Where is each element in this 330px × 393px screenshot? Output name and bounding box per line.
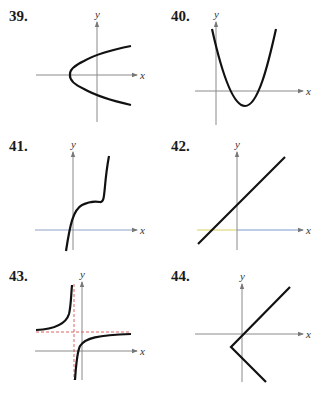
cubic-curve xyxy=(66,156,109,251)
rational-left-branch xyxy=(36,285,72,330)
y-axis-label: y xyxy=(94,8,100,20)
graph-42: x y xyxy=(197,138,311,250)
graph-40: x y xyxy=(195,8,311,125)
y-axis-label: y xyxy=(70,138,76,150)
rational-right-branch xyxy=(75,334,131,380)
graph-43: x y xyxy=(35,268,145,380)
x-axis-label: x xyxy=(305,224,311,236)
linear-curve xyxy=(198,157,285,244)
x-axis-label: x xyxy=(305,328,311,340)
x-axis-label: x xyxy=(139,69,145,81)
graph-39: x y xyxy=(36,8,145,122)
y-axis-label: y xyxy=(234,138,240,150)
graphs-canvas: x y x y x y x y x y xyxy=(0,0,330,393)
y-axis-label: y xyxy=(79,268,85,280)
parabola-curve xyxy=(212,29,276,106)
graph-44: x y xyxy=(195,270,311,382)
x-axis-label: x xyxy=(305,85,311,97)
x-axis-label: x xyxy=(139,224,145,236)
x-axis-label: x xyxy=(139,345,145,357)
y-axis-label: y xyxy=(213,8,219,20)
y-axis-label: y xyxy=(239,270,245,282)
graph-41: x y xyxy=(35,138,145,251)
